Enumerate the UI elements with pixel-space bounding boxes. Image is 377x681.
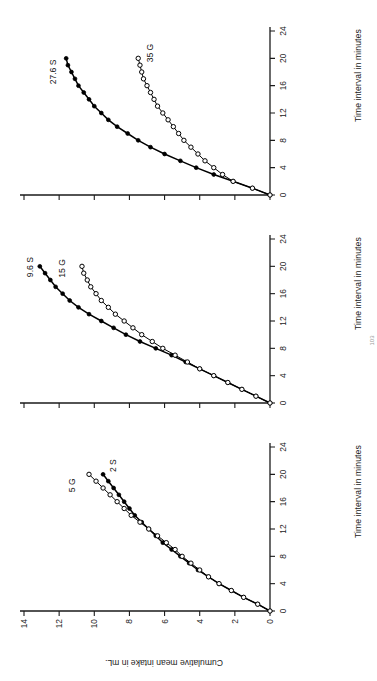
series-line-27-6-S (66, 58, 270, 195)
chart-panel-3: 0481216202427.6 S35 G (14, 23, 314, 221)
data-point-marker (99, 319, 103, 323)
series-label-15-G: 15 G (57, 259, 67, 278)
x-axis-title-panel-3: Time interval in minutes (353, 29, 363, 122)
y-axis-title: Cumulative mean intake in mL. (105, 658, 223, 668)
panel-3-svg: 0481216202427.6 S35 G (14, 23, 314, 221)
data-point-marker (113, 312, 117, 316)
data-point-marker (268, 609, 272, 613)
data-point-marker (212, 165, 216, 169)
data-point-marker (54, 285, 58, 289)
data-point-marker (68, 299, 72, 303)
data-point-marker (80, 264, 84, 268)
data-point-marker (92, 104, 96, 108)
x-tick-label: 4 (278, 581, 288, 586)
data-point-marker (128, 507, 132, 511)
x-tick-label: 0 (278, 400, 288, 405)
x-tick-label: 8 (278, 554, 288, 559)
data-point-marker (217, 581, 221, 585)
panel-2-svg: 048121620249.6 S15 G (14, 231, 314, 429)
data-point-marker (182, 138, 186, 142)
x-tick-label: 0 (278, 608, 288, 613)
x-tick-label: 4 (278, 373, 288, 378)
x-tick-label: 4 (278, 165, 288, 170)
data-point-marker (164, 540, 168, 544)
data-point-marker (189, 561, 193, 565)
data-point-marker (140, 70, 144, 74)
data-point-marker (122, 506, 126, 510)
data-point-marker (89, 285, 93, 289)
data-point-marker (70, 70, 74, 74)
data-point-marker (87, 312, 91, 316)
data-point-marker (229, 588, 233, 592)
y-tick-label: 6 (160, 619, 170, 624)
data-point-marker (122, 500, 126, 504)
data-point-marker (206, 575, 210, 579)
data-point-marker (64, 56, 68, 60)
data-point-marker (240, 387, 244, 391)
data-point-marker (136, 138, 140, 142)
data-point-marker (108, 493, 112, 497)
x-tick-label: 20 (278, 261, 288, 271)
y-tick-label: 10 (89, 619, 99, 629)
data-point-marker (189, 145, 193, 149)
data-point-marker (38, 264, 42, 268)
y-tick-label: 0 (265, 619, 275, 624)
data-point-marker (220, 172, 224, 176)
data-point-marker (250, 186, 254, 190)
data-point-marker (231, 179, 235, 183)
data-point-marker (112, 486, 116, 490)
data-point-marker (166, 118, 170, 122)
data-point-marker (94, 479, 98, 483)
data-point-marker (117, 493, 121, 497)
data-point-marker (173, 353, 177, 357)
axis-spine (20, 443, 270, 611)
x-axis-title-panel-1: Time interval in minutes (353, 445, 363, 538)
data-point-marker (185, 360, 189, 364)
data-point-marker (194, 166, 198, 170)
page-number: 103 (369, 335, 375, 345)
data-point-marker (150, 339, 154, 343)
x-tick-label: 24 (278, 442, 288, 452)
data-point-marker (138, 340, 142, 344)
data-point-marker (173, 547, 177, 551)
data-point-marker (155, 104, 159, 108)
data-point-marker (99, 111, 103, 115)
data-point-marker (61, 292, 65, 296)
data-point-marker (87, 97, 91, 101)
y-tick-label: 8 (124, 619, 134, 624)
data-point-marker (268, 401, 272, 405)
panel-1-svg: 04812162024024681012142 S5 G (14, 439, 314, 637)
x-tick-label: 16 (278, 289, 288, 299)
data-point-marker (161, 111, 165, 115)
data-point-marker (154, 346, 158, 350)
data-point-marker (147, 527, 151, 531)
data-point-marker (138, 520, 142, 524)
data-point-marker (66, 63, 70, 67)
series-line-15-G (82, 266, 270, 403)
x-tick-label: 8 (278, 346, 288, 351)
data-point-marker (48, 278, 52, 282)
data-point-marker (106, 118, 110, 122)
data-point-marker (161, 346, 165, 350)
x-tick-label: 0 (278, 192, 288, 197)
data-point-marker (124, 333, 128, 337)
data-point-marker (155, 534, 159, 538)
data-point-marker (268, 193, 272, 197)
series-label-2-S: 2 S (108, 459, 118, 472)
data-point-marker (145, 83, 149, 87)
x-tick-label: 24 (278, 26, 288, 36)
data-point-marker (212, 173, 216, 177)
series-line-2-S (103, 474, 270, 611)
data-point-marker (148, 90, 152, 94)
data-point-marker (149, 145, 153, 149)
data-point-marker (136, 56, 140, 60)
chart-panel-2: 048121620249.6 S15 G (14, 231, 314, 429)
chart-panel-1: 04812162024024681012142 S5 G (14, 439, 314, 637)
y-tick-label: 12 (54, 619, 64, 629)
y-tick-label: 2 (230, 619, 240, 624)
data-point-marker (196, 152, 200, 156)
series-line-9-6-S (40, 266, 270, 403)
data-point-marker (99, 298, 103, 302)
data-point-marker (198, 568, 202, 572)
data-point-marker (77, 305, 81, 309)
